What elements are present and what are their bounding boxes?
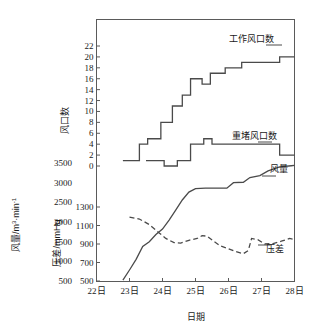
label-airflow: 风量 (270, 164, 288, 174)
pressure-tick-label: 700 (80, 258, 94, 268)
x-tick-label: 23日 (121, 286, 139, 296)
pressure-axis-tick-labels: 50070090011001300 (76, 202, 95, 286)
label-pressure: 压差 (266, 243, 284, 254)
x-tick-label: 27日 (253, 286, 271, 296)
series-working-vents-line (123, 57, 295, 161)
pressure-tick-label: 1300 (76, 202, 95, 212)
vents-axis-tick-labels: 0246810121416182022 (85, 41, 95, 171)
x-tick-label: 25日 (187, 286, 205, 296)
vents-tick-label: 0 (89, 161, 94, 171)
vents-tick-label: 16 (85, 74, 95, 84)
series-blocked-vents-line (146, 139, 295, 166)
pressure-axis-ticks (97, 207, 101, 281)
vents-tick-label: 12 (85, 96, 94, 106)
vents-tick-label: 4 (89, 139, 94, 149)
axis-title-date: 日期 (187, 312, 205, 322)
x-tick-label: 22日 (88, 286, 106, 296)
axis-title-vents: 风口数 (59, 107, 70, 134)
vents-tick-label: 6 (89, 128, 94, 138)
label-blocked-vents: 重堵风口数 (232, 130, 277, 141)
vents-tick-label: 20 (85, 52, 95, 62)
axis-title-airflow: 风量/m3·min-1 (11, 197, 21, 252)
x-tick-label: 28日 (286, 286, 304, 296)
axis-title-airflow-sup2: -1 (11, 197, 17, 203)
airflow-tick-label: 3000 (54, 178, 73, 188)
vents-tick-label: 22 (85, 41, 94, 51)
chart-figure: 0246810121416182022 50070090011001300 50… (0, 0, 310, 325)
label-working-vents: 工作风口数 (229, 33, 274, 44)
multi-axis-line-chart: 0246810121416182022 50070090011001300 50… (0, 0, 310, 325)
pressure-tick-label: 900 (80, 239, 94, 249)
airflow-tick-label: 2500 (54, 197, 73, 207)
pressure-tick-label: 1100 (76, 221, 94, 231)
pressure-tick-label: 500 (80, 276, 94, 286)
vents-axis-ticks (97, 46, 101, 166)
vents-tick-label: 18 (85, 63, 95, 73)
svg-text:风量/m3·min-1: 风量/m3·min-1 (11, 197, 21, 252)
vents-tick-label: 8 (89, 117, 94, 127)
plot-frame (97, 20, 295, 282)
axis-title-airflow-part2: ·min (11, 203, 21, 221)
series-airflow-line (123, 165, 295, 280)
axis-title-airflow-part1: 风量/m (11, 224, 21, 252)
x-tick-label: 24日 (154, 286, 172, 296)
axis-title-pressure: 压差/mmHg (51, 220, 62, 267)
airflow-tick-label: 3500 (54, 158, 73, 168)
airflow-tick-label: 500 (59, 276, 73, 286)
x-tick-label: 26日 (220, 286, 238, 296)
vents-tick-label: 2 (89, 150, 94, 160)
vents-tick-label: 10 (85, 106, 95, 116)
x-axis-ticks (97, 278, 295, 282)
x-axis-tick-labels: 22日23日24日25日26日27日28日 (88, 286, 304, 296)
vents-tick-label: 14 (85, 85, 95, 95)
